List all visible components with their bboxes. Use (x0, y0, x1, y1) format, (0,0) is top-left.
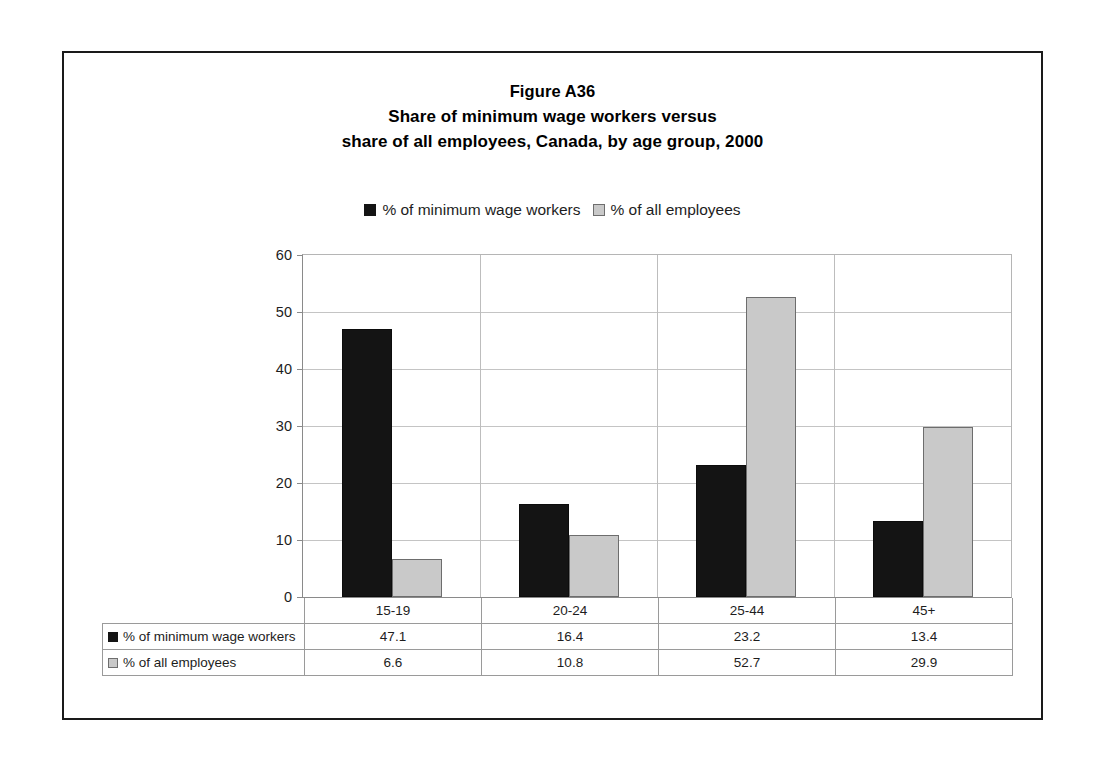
bar-25-44-series0[interactable] (696, 465, 746, 597)
y-tick-10 (297, 540, 303, 541)
table-category-header-0: 15-19 (305, 598, 482, 624)
table-series-label-text-1: % of all employees (123, 655, 236, 670)
figure-number: Figure A36 (64, 79, 1041, 104)
table-category-header-2: 25-44 (659, 598, 836, 624)
table-cell-r1c0: 6.6 (305, 650, 482, 676)
table-cell-r0c0: 47.1 (305, 624, 482, 650)
legend-item-minimum-wage-workers[interactable]: % of minimum wage workers (364, 201, 580, 219)
category-divider-25-44 (657, 255, 658, 597)
table-cell-r1c1: 10.8 (482, 650, 659, 676)
bar-15-19-series1[interactable] (392, 559, 442, 597)
dark-square-icon (364, 204, 376, 216)
figure-frame: Figure A36 Share of minimum wage workers… (62, 51, 1043, 720)
chart-legend: % of minimum wage workers % of all emplo… (64, 201, 1041, 219)
plot-area: 0102030405060 (302, 254, 1012, 598)
figure-title-line-1: Share of minimum wage workers versus (64, 104, 1041, 129)
table-cell-r0c1: 16.4 (482, 624, 659, 650)
y-tick-label-20: 20 (276, 475, 292, 491)
table-corner-spacer (103, 598, 305, 624)
figure-title-line-2: share of all employees, Canada, by age g… (64, 129, 1041, 154)
y-tick-30 (297, 426, 303, 427)
dark-square-icon (108, 632, 118, 642)
table-cell-r1c3: 29.9 (836, 650, 1013, 676)
bar-20-24-series0[interactable] (519, 504, 569, 597)
data-table: 15-19 20-24 25-44 45+ % of minimum wage … (102, 598, 1013, 676)
table-series-label-all-employees: % of all employees (103, 650, 305, 676)
light-square-icon (593, 204, 605, 216)
bar-25-44-series1[interactable] (746, 297, 796, 597)
figure-title-block: Figure A36 Share of minimum wage workers… (64, 79, 1041, 154)
y-tick-label-40: 40 (276, 361, 292, 377)
table-category-header-3: 45+ (836, 598, 1013, 624)
y-tick-60 (297, 255, 303, 256)
table-cell-r0c3: 13.4 (836, 624, 1013, 650)
y-tick-label-50: 50 (276, 304, 292, 320)
table-category-header-1: 20-24 (482, 598, 659, 624)
y-tick-50 (297, 312, 303, 313)
y-tick-40 (297, 369, 303, 370)
table-row: % of all employees 6.6 10.8 52.7 29.9 (103, 650, 1013, 676)
category-divider-20-24 (480, 255, 481, 597)
table-cell-r1c2: 52.7 (659, 650, 836, 676)
bar-20-24-series1[interactable] (569, 535, 619, 597)
legend-item-all-employees[interactable]: % of all employees (593, 201, 741, 219)
legend-label-minimum-wage-workers: % of minimum wage workers (382, 201, 580, 219)
category-divider-45+ (834, 255, 835, 597)
table-series-label-text-0: % of minimum wage workers (123, 629, 296, 644)
table-row-category-headers: 15-19 20-24 25-44 45+ (103, 598, 1013, 624)
y-tick-label-10: 10 (276, 532, 292, 548)
legend-label-all-employees: % of all employees (611, 201, 741, 219)
bar-45+-series1[interactable] (923, 427, 973, 597)
table-series-label-minimum-wage-workers: % of minimum wage workers (103, 624, 305, 650)
bar-15-19-series0[interactable] (342, 329, 392, 597)
y-tick-20 (297, 483, 303, 484)
table-row: % of minimum wage workers 47.1 16.4 23.2… (103, 624, 1013, 650)
y-tick-label-30: 30 (276, 418, 292, 434)
bar-45+-series0[interactable] (873, 521, 923, 597)
table-cell-r0c2: 23.2 (659, 624, 836, 650)
light-square-icon (108, 658, 118, 668)
y-tick-label-60: 60 (276, 247, 292, 263)
